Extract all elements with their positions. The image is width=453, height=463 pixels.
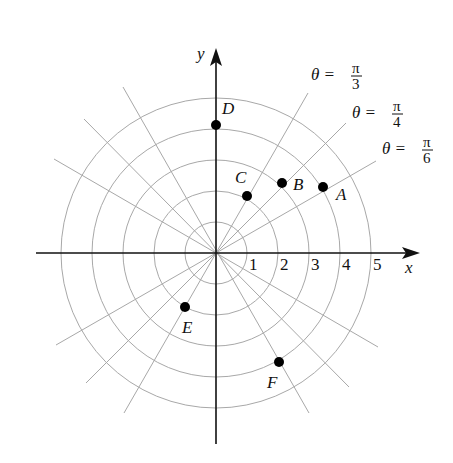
point-F	[274, 357, 284, 367]
point-C-label: C	[235, 168, 247, 187]
fraction-numerator: π	[393, 98, 401, 114]
tick-2: 2	[280, 255, 289, 274]
y-axis-label: y	[195, 44, 205, 63]
point-E	[180, 302, 190, 312]
point-A	[318, 182, 328, 192]
annotation-pi-over-4: θ = π 4	[352, 98, 403, 130]
point-D-label: D	[221, 99, 235, 118]
point-D	[211, 120, 221, 130]
polar-diagram: x y 1 2 3 4 5 θ = π 3 θ = π 4 θ = π 6 A …	[0, 0, 453, 463]
data-points: A B C D E F	[180, 99, 347, 392]
theta-label: θ =	[352, 103, 376, 122]
point-A-label: A	[335, 185, 347, 204]
annotation-pi-over-6: θ = π 6	[382, 134, 433, 166]
point-B-label: B	[293, 175, 304, 194]
x-axis-label: x	[404, 258, 413, 277]
fraction-denominator: 6	[423, 150, 431, 166]
fraction-denominator: 4	[393, 114, 401, 130]
fraction-numerator: π	[423, 134, 431, 150]
polar-plot-svg: x y 1 2 3 4 5 θ = π 3 θ = π 4 θ = π 6 A …	[0, 0, 453, 463]
point-B	[277, 178, 287, 188]
theta-label: θ =	[311, 65, 335, 84]
annotation-pi-over-3: θ = π 3	[311, 60, 362, 92]
tick-3: 3	[311, 255, 320, 274]
fraction-denominator: 3	[352, 76, 360, 92]
point-E-label: E	[181, 318, 193, 337]
radial-tick-labels: 1 2 3 4 5	[249, 255, 382, 274]
tick-4: 4	[342, 255, 351, 274]
point-C	[242, 191, 252, 201]
tick-5: 5	[373, 255, 382, 274]
fraction-numerator: π	[352, 60, 360, 76]
theta-label: θ =	[382, 139, 406, 158]
tick-1: 1	[249, 255, 258, 274]
point-F-label: F	[266, 373, 278, 392]
